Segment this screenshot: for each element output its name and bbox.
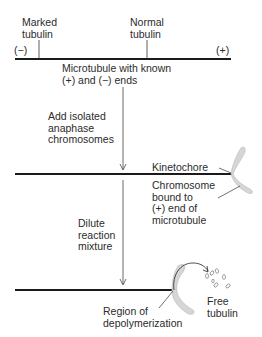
kinetochore-pointer bbox=[219, 168, 231, 173]
minus-end-label: (−) bbox=[14, 45, 27, 57]
step2-label: Dilute reaction mixture bbox=[78, 218, 115, 253]
normal-tubulin-label: Normal tubulin bbox=[130, 17, 164, 40]
marked-tubulin-label: Marked tubulin bbox=[22, 17, 57, 40]
chromosome-pointer bbox=[218, 186, 240, 198]
kinetochore-label: Kinetochore bbox=[152, 162, 208, 174]
free-tubulin-label: Free tubulin bbox=[207, 296, 238, 319]
region-of-depolymerization-label: Region of depolymerization bbox=[103, 306, 182, 329]
chromosome-label: Chromosome bound to (+) end of microtubu… bbox=[152, 180, 215, 226]
microtubule-caption: Microtubule with known (+) and (−) ends bbox=[62, 63, 171, 86]
release-arrow-head bbox=[203, 266, 208, 272]
free-tubulin-dimers bbox=[206, 268, 231, 288]
step1-label: Add isolated anaphase chromosomes bbox=[48, 111, 114, 146]
chromosome-bound bbox=[231, 147, 252, 193]
plus-end-label: (+) bbox=[216, 45, 229, 57]
